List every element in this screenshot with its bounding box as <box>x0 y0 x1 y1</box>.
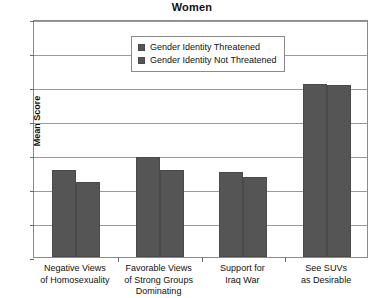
category-label-line: Negative Views <box>33 263 117 275</box>
y-axis-tick <box>30 123 34 124</box>
category-label: See SUVsas Desirable <box>284 263 368 286</box>
category-label-line: as Desirable <box>284 275 368 287</box>
bar <box>76 182 100 257</box>
bar <box>219 172 243 257</box>
y-axis-tick <box>30 55 34 56</box>
category-label-line: Dominating <box>117 286 201 298</box>
bar <box>303 84 327 257</box>
bar <box>327 85 351 257</box>
chart-legend: Gender Identity Threatened Gender Identi… <box>131 36 285 72</box>
category-divider-tick <box>285 257 286 262</box>
y-axis-tick <box>30 191 34 192</box>
category-label: Favorable Viewsof Strong GroupsDominatin… <box>117 263 201 298</box>
category-label-line: See SUVs <box>284 263 368 275</box>
legend-item: Gender Identity Threatened <box>138 41 276 54</box>
legend-label: Gender Identity Threatened <box>150 41 260 54</box>
category-label-line: Favorable Views <box>117 263 201 275</box>
category-divider-tick <box>118 257 119 262</box>
legend-swatch-icon <box>138 44 145 51</box>
bar <box>52 170 76 257</box>
chart-title: Women <box>0 1 384 13</box>
y-axis-tick <box>30 157 34 158</box>
y-axis-tick <box>30 259 34 260</box>
category-divider-tick <box>202 257 203 262</box>
legend-item: Gender Identity Not Threatened <box>138 54 276 67</box>
legend-swatch-icon <box>138 57 145 64</box>
category-label-line: of Homosexuality <box>33 275 117 287</box>
y-axis-tick <box>30 89 34 90</box>
category-label-line: Support for <box>201 263 285 275</box>
bar <box>243 177 267 257</box>
y-axis-tick <box>30 21 34 22</box>
y-axis-tick <box>30 225 34 226</box>
bar <box>136 157 160 257</box>
category-label-line: of Strong Groups <box>117 275 201 287</box>
bar <box>160 170 184 257</box>
legend-label: Gender Identity Not Threatened <box>150 54 276 67</box>
gridline <box>34 21 367 22</box>
category-label: Negative Viewsof Homosexuality <box>33 263 117 286</box>
category-label: Support forIraq War <box>201 263 285 286</box>
y-axis-label: Mean Score <box>32 96 42 147</box>
category-label-line: Iraq War <box>201 275 285 287</box>
